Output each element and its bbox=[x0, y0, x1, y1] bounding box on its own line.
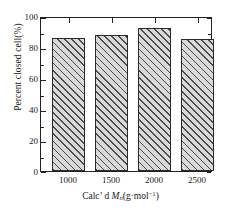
bar-chart-figure: Percent closed cell(%) 100 80 60 40 20 0 bbox=[0, 0, 241, 213]
x-axis-title: Calc’ d Mn(g·mol−1) bbox=[0, 190, 241, 201]
y-tick-label-100: 100 bbox=[2, 13, 38, 22]
x-major-tick-top bbox=[112, 18, 113, 23]
bar-1500 bbox=[95, 35, 128, 171]
x-axis-title-units-close: ) bbox=[156, 191, 159, 201]
x-major-tick-top bbox=[198, 18, 199, 23]
y-axis-title: Percent closed cell(%) bbox=[13, 0, 23, 147]
y-major-tick bbox=[41, 172, 46, 173]
x-axis-title-units-open: (g·mol bbox=[123, 191, 149, 201]
x-axis-title-units-exponent: −1 bbox=[149, 190, 156, 197]
y-minor-tick bbox=[41, 158, 44, 159]
y-minor-tick bbox=[41, 65, 44, 66]
x-tick-label-2000: 2000 bbox=[131, 176, 177, 185]
y-major-tick bbox=[41, 142, 46, 143]
y-minor-tick bbox=[41, 96, 44, 97]
y-minor-tick bbox=[41, 34, 44, 35]
y-tick-label-80: 80 bbox=[2, 44, 38, 53]
bar-2000 bbox=[138, 28, 171, 171]
x-axis-title-d: d bbox=[102, 191, 112, 201]
y-major-tick bbox=[41, 18, 46, 19]
x-axis-title-prefix: Calc bbox=[82, 191, 99, 201]
bar-1000 bbox=[52, 38, 85, 171]
y-major-tick bbox=[41, 49, 46, 50]
x-tick-label-1000: 1000 bbox=[45, 176, 91, 185]
x-major-tick-top bbox=[69, 18, 70, 23]
x-major-tick-top bbox=[155, 18, 156, 23]
bar-2500 bbox=[181, 39, 214, 171]
y-tick-label-40: 40 bbox=[2, 106, 38, 115]
x-tick-label-1500: 1500 bbox=[88, 176, 134, 185]
y-minor-tick bbox=[41, 127, 44, 128]
y-tick-label-0: 0 bbox=[2, 168, 38, 177]
plot-area bbox=[40, 17, 212, 172]
y-major-tick-right bbox=[207, 172, 212, 173]
y-tick-label-20: 20 bbox=[2, 137, 38, 146]
y-major-tick bbox=[41, 80, 46, 81]
y-major-tick bbox=[41, 111, 46, 112]
y-tick-label-60: 60 bbox=[2, 75, 38, 84]
y-major-tick-right bbox=[207, 18, 212, 19]
y-minor-tick-right bbox=[208, 34, 211, 35]
x-tick-label-2500: 2500 bbox=[174, 176, 220, 185]
